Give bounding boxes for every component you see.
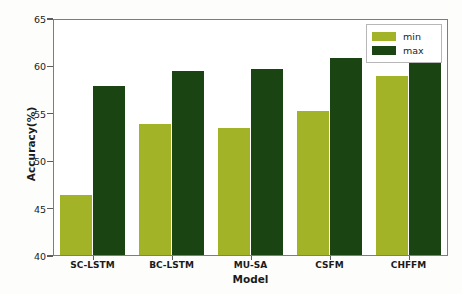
bar-min-mu-sa <box>218 128 250 255</box>
bar-chart: 404550556065 SC-LSTMBC-LSTMMU-SACSFMCHFF… <box>0 0 462 294</box>
bar-min-sc-lstm <box>60 195 92 255</box>
x-tick-mark <box>93 256 94 260</box>
x-tick-label: CHFFM <box>391 260 426 270</box>
legend-swatch-min <box>372 32 396 41</box>
chart-legend: min max <box>366 24 442 63</box>
x-tick-label: CSFM <box>315 260 343 270</box>
legend-label-min: min <box>403 31 421 42</box>
bar-max-bc-lstm <box>172 71 204 255</box>
y-tick-label: 40 <box>14 251 46 262</box>
legend-swatch-max <box>372 46 396 55</box>
bar-max-chffm <box>409 55 441 255</box>
x-tick-mark <box>172 256 173 260</box>
bar-max-sc-lstm <box>93 86 125 255</box>
x-tick-label: SC-LSTM <box>70 260 114 270</box>
legend-label-max: max <box>403 45 424 56</box>
y-tick-label: 65 <box>14 14 46 25</box>
y-axis-label: Accuracy(%) <box>25 64 37 224</box>
x-tick-mark <box>251 256 252 260</box>
x-tick-mark <box>330 256 331 260</box>
legend-item-min: min <box>372 30 436 43</box>
bar-max-mu-sa <box>251 69 283 255</box>
bar-min-chffm <box>376 76 408 255</box>
bar-min-bc-lstm <box>139 124 171 255</box>
x-axis-label: Model <box>53 273 448 285</box>
bar-min-csfm <box>297 111 329 255</box>
bar-max-csfm <box>330 58 362 255</box>
x-tick-label: MU-SA <box>234 260 267 270</box>
x-tick-label: BC-LSTM <box>149 260 194 270</box>
legend-item-max: max <box>372 44 436 57</box>
x-tick-mark <box>409 256 410 260</box>
